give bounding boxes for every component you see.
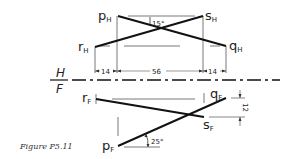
label-r-f: rF bbox=[82, 90, 91, 106]
label-p-h: pH bbox=[98, 8, 112, 24]
angle-label-25: 25° bbox=[151, 138, 163, 146]
label-q-h: qH bbox=[229, 38, 243, 54]
front-view: 25° 12 rF qF sF pF bbox=[82, 86, 249, 154]
fold-label-h: H bbox=[56, 66, 65, 80]
top-view: pH sH rH qH 15° 14 56 14 bbox=[78, 8, 243, 76]
descriptive-geometry-diagram: pH sH rH qH 15° 14 56 14 H F 25° bbox=[0, 0, 290, 159]
label-r-h: rH bbox=[78, 39, 89, 55]
dimension-56: 56 bbox=[152, 68, 161, 76]
label-s-f: sF bbox=[203, 117, 214, 133]
dimension-14-left: 14 bbox=[101, 68, 110, 76]
label-s-h: sH bbox=[205, 8, 217, 24]
dimension-12: 12 bbox=[241, 103, 249, 112]
angle-label-15: 15° bbox=[152, 20, 164, 28]
figure-caption: Figure P5.11 bbox=[19, 142, 73, 151]
fold-label-f: F bbox=[56, 82, 64, 96]
label-p-f: pF bbox=[102, 138, 114, 154]
label-q-f: qF bbox=[210, 86, 222, 102]
dimension-14-right: 14 bbox=[208, 68, 217, 76]
